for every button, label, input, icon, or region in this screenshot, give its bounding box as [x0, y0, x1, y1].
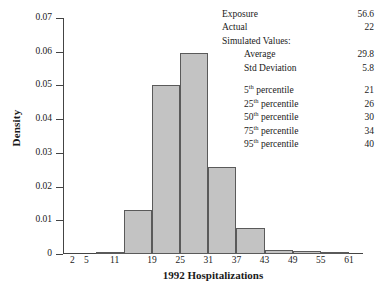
percentile-value: 34	[365, 125, 375, 138]
histogram-bar	[124, 210, 152, 254]
y-axis-tick-label: 0.07	[35, 13, 52, 23]
histogram-bar	[293, 251, 321, 254]
histogram-bar	[236, 228, 264, 254]
exposure-label: Exposure	[222, 8, 258, 21]
histogram-chart: Density 00.010.020.030.040.050.060.07 25…	[0, 0, 381, 294]
stat-row-percentile: 25th percentile26	[222, 98, 374, 111]
y-axis-tick	[56, 187, 63, 188]
y-axis-tick	[56, 119, 63, 120]
histogram-bar	[152, 85, 180, 254]
stat-row-percentile: 95th percentile40	[222, 138, 374, 151]
stat-row-exposure: Exposure 56.6	[222, 8, 374, 21]
percentile-label: 75th percentile	[244, 125, 298, 138]
y-axis-tick-label: 0.02	[35, 182, 52, 192]
stats-annotation-panel: Exposure 56.6 Actual 22 Simulated Values…	[222, 8, 374, 152]
percentile-label: 25th percentile	[244, 98, 298, 111]
y-axis-tick	[56, 220, 63, 221]
y-axis-title: Density	[10, 88, 22, 168]
y-axis-tick	[56, 18, 63, 19]
histogram-bar	[265, 250, 293, 254]
y-axis-tick	[56, 85, 63, 86]
stat-row-percentile: 50th percentile30	[222, 111, 374, 124]
percentile-value: 21	[365, 84, 375, 97]
percentile-label: 50th percentile	[244, 111, 298, 124]
y-axis-tick-label: 0.01	[35, 215, 52, 225]
stat-row-std-deviation: Std Deviation 5.8	[222, 62, 374, 75]
actual-value: 22	[365, 21, 375, 34]
x-axis-tick-label: 61	[329, 256, 369, 266]
y-axis-tick	[56, 153, 63, 154]
y-axis-tick-label: 0.06	[35, 47, 52, 57]
histogram-bar	[96, 252, 124, 254]
histogram-bar	[180, 53, 208, 254]
y-axis-tick	[56, 254, 63, 255]
x-axis-title: 1992 Hospitalizations	[63, 269, 363, 281]
stat-row-percentile: 75th percentile34	[222, 125, 374, 138]
y-axis-tick-label: 0.04	[35, 114, 52, 124]
average-label: Average	[244, 48, 275, 61]
actual-label: Actual	[222, 21, 247, 34]
exposure-value: 56.6	[357, 8, 374, 21]
y-axis-tick	[56, 52, 63, 53]
histogram-bar	[321, 252, 349, 254]
percentile-label: 95th percentile	[244, 138, 298, 151]
percentile-value: 26	[365, 98, 375, 111]
percentile-value: 30	[365, 111, 375, 124]
stat-row-actual: Actual 22	[222, 21, 374, 34]
y-axis-tick-label: 0.03	[35, 148, 52, 158]
average-value: 29.8	[357, 48, 374, 61]
stat-row-average: Average 29.8	[222, 48, 374, 61]
y-axis-tick-label: 0.05	[35, 80, 52, 90]
std-deviation-label: Std Deviation	[244, 62, 297, 75]
simulated-values-header: Simulated Values:	[222, 35, 374, 48]
percentile-value: 40	[365, 138, 375, 151]
x-axis-tick-label: 11	[95, 256, 135, 266]
percentile-label: 5th percentile	[244, 84, 294, 97]
percentile-list: 5th percentile2125th percentile2650th pe…	[222, 84, 374, 151]
stats-spacer	[222, 75, 374, 84]
y-axis-tick-label: 0	[47, 249, 52, 259]
std-deviation-value: 5.8	[362, 62, 374, 75]
histogram-bar	[208, 167, 236, 254]
stat-row-percentile: 5th percentile21	[222, 84, 374, 97]
